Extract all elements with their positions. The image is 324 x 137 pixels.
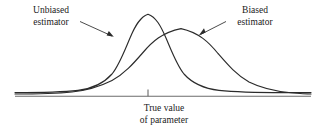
true-value-caption: True value of parameter [118, 103, 210, 126]
unbiased-estimator-label-line1: Unbiased [18, 5, 84, 17]
unbiased-arrow-icon [80, 22, 114, 37]
unbiased-estimator-label-line2: estimator [18, 17, 84, 29]
biased-estimator-label-line2: estimator [224, 17, 286, 29]
biased-estimator-label: Biased estimator [224, 5, 286, 28]
true-value-caption-line2: of parameter [118, 115, 210, 127]
biased-estimator-label-line1: Biased [224, 5, 286, 17]
statistics-figure: Unbiased estimator Biased estimator True… [0, 0, 324, 137]
biased-arrow-icon [199, 22, 226, 36]
unbiased-estimator-label: Unbiased estimator [18, 5, 84, 28]
true-value-caption-line1: True value [118, 103, 210, 115]
curve-biased-estimator [15, 29, 311, 94]
